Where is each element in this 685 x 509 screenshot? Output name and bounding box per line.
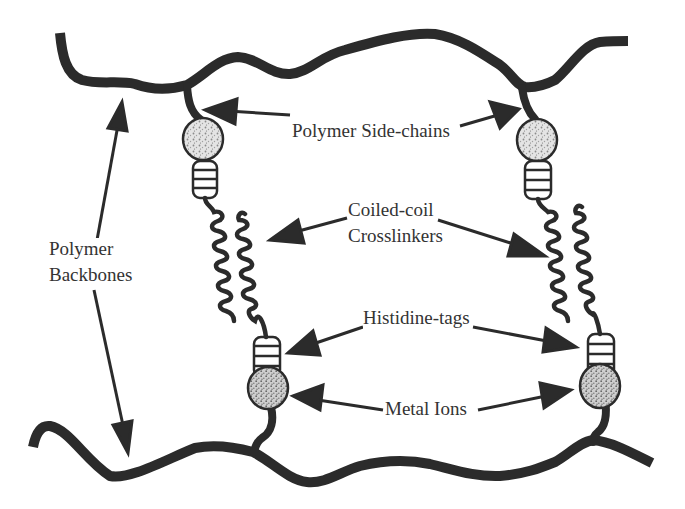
annotation-arrows: [94, 99, 576, 453]
arrowhead-sidechain-right: [490, 102, 519, 128]
left-bottom-side-chain: [254, 407, 272, 452]
arrowhead-coiledcoil-left: [270, 220, 304, 243]
arrowhead-coiledcoil-right: [508, 234, 545, 256]
label-polymer-side-chains: Polymer Side-chains: [292, 120, 450, 142]
label-coiled-coil-line2: Crosslinkers: [348, 225, 443, 247]
left-top-histidine-tag: [193, 161, 217, 198]
arrowhead-histag-right: [543, 328, 576, 352]
top-backbone: [60, 33, 628, 89]
left-top-metal-ion: [183, 118, 223, 160]
arrowhead-metal-left: [293, 385, 323, 410]
right-helix-b: [574, 206, 600, 334]
right-coiled-coil-crosslinker: [538, 199, 600, 334]
label-polymer-backbones-line1: Polymer: [49, 238, 113, 260]
right-bottom-metal-ion: [580, 364, 620, 408]
right-top-histidine-tag: [525, 161, 551, 199]
label-polymer-backbones-line2: Backbones: [49, 264, 132, 286]
right-helix-a: [538, 199, 568, 321]
right-top-metal-ion: [517, 119, 557, 161]
arrowhead-histag-left: [288, 331, 320, 355]
left-helix-b: [237, 213, 266, 337]
left-coiled-coil-crosslinker: [205, 198, 266, 337]
right-top-side-chain: [522, 88, 535, 119]
arrowhead-backbone-top: [108, 102, 127, 131]
arrowhead-backbone-bottom: [113, 421, 132, 453]
left-bottom-metal-ion: [248, 367, 288, 409]
left-top-side-chain: [187, 86, 201, 120]
label-metal-ions: Metal Ions: [385, 398, 467, 420]
arrowhead-metal-right: [540, 383, 571, 408]
label-coiled-coil-line1: Coiled-coil: [348, 199, 433, 221]
left-helix-a: [205, 198, 234, 321]
label-histidine-tags: Histidine-tags: [363, 307, 470, 329]
